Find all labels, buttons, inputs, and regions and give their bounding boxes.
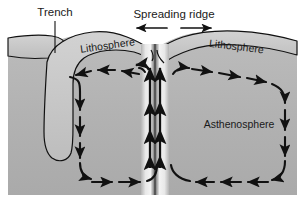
label-asthenosphere: Asthenosphere [204,118,275,130]
tectonics-diagram: Trench Spreading ridge Lithosphere Litho… [0,0,306,209]
label-spreading-ridge: Spreading ridge [133,8,214,20]
label-trench: Trench [37,6,72,18]
diagram-canvas: Trench Spreading ridge Lithosphere Litho… [0,0,306,209]
